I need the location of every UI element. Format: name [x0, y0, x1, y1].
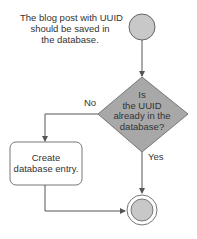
yes-label: Yes: [148, 151, 164, 162]
no-label: No: [84, 97, 96, 108]
decision-label: Is the UUID already in the database?: [102, 90, 182, 132]
action-label: Create database entry.: [10, 152, 82, 174]
start-note-line: The blog post with UUID: [20, 12, 120, 23]
action-line: database entry.: [10, 163, 82, 174]
end-node-inner: [131, 199, 153, 221]
start-note-line: should be saved in: [20, 23, 120, 34]
action-line: Create: [10, 152, 82, 163]
start-node: [129, 14, 155, 40]
edge-no: [45, 114, 98, 141]
decision-line: already in the: [102, 111, 182, 122]
decision-line: Is: [102, 90, 182, 101]
start-note-line: the database.: [20, 34, 120, 45]
start-note: The blog post with UUID should be saved …: [20, 12, 120, 45]
decision-line: database?: [102, 122, 182, 133]
edge-action-to-end: [45, 185, 125, 211]
